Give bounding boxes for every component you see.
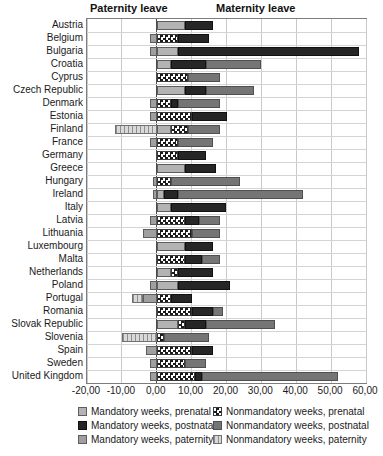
legend-item: Nonmandatory weeks, postnatal xyxy=(213,420,369,431)
gridline-horizontal xyxy=(87,188,366,189)
legend-label: Nonmandatory weeks, paternity xyxy=(226,434,367,445)
bar-segment-postnatal_nonmandatory xyxy=(188,125,219,134)
bar-segment-prenatal_nonmandatory xyxy=(157,151,178,160)
bar-segment-postnatal_mandatory xyxy=(171,99,178,108)
bar-segment-postnatal_mandatory xyxy=(185,320,206,329)
bar-segment-postnatal_mandatory xyxy=(192,346,213,355)
bar-segment-postnatal_nonmandatory xyxy=(178,138,213,147)
bar-segment-prenatal_mandatory xyxy=(157,320,178,329)
gridline-horizontal xyxy=(87,214,366,215)
bar-segment-prenatal_mandatory xyxy=(157,21,185,30)
country-label: Cyprus xyxy=(0,70,83,83)
bar-segment-prenatal_nonmandatory xyxy=(157,112,192,121)
bar-segment-postnatal_nonmandatory xyxy=(213,307,223,316)
gridline-horizontal xyxy=(87,162,366,163)
gridline-horizontal xyxy=(87,240,366,241)
legend-item: Mandatory weeks, postnatal xyxy=(78,420,216,431)
bar-segment-paternity_mandatory xyxy=(143,229,157,238)
bar-segment-prenatal_nonmandatory xyxy=(157,138,178,147)
country-label: Greece xyxy=(0,161,83,174)
legend-swatch-paternity_nonmandatory xyxy=(213,435,222,444)
bar-segment-postnatal_nonmandatory xyxy=(178,99,220,108)
bar-segment-paternity_nonmandatory xyxy=(132,294,142,303)
legend-label: Mandatory weeks, postnatal xyxy=(91,420,216,431)
bar-segment-postnatal_mandatory xyxy=(192,112,227,121)
bar-segment-postnatal_nonmandatory xyxy=(178,190,304,199)
x-tick-label: -10,00 xyxy=(107,385,135,396)
bar-segment-prenatal_mandatory xyxy=(157,86,185,95)
bar-segment-prenatal_mandatory xyxy=(157,242,185,251)
bar-segment-postnatal_nonmandatory xyxy=(188,73,219,82)
country-label: Lithuania xyxy=(0,226,83,239)
bar-segment-prenatal_nonmandatory xyxy=(157,294,171,303)
gridline-horizontal xyxy=(87,253,366,254)
bar-segment-postnatal_nonmandatory xyxy=(164,333,209,342)
country-label: Estonia xyxy=(0,109,83,122)
bar-segment-postnatal_mandatory xyxy=(185,86,206,95)
bar-segment-prenatal_mandatory xyxy=(157,125,171,134)
bar-segment-prenatal_nonmandatory xyxy=(157,346,192,355)
bar-segment-postnatal_mandatory xyxy=(185,255,202,264)
x-tick-label: 20,00 xyxy=(213,385,238,396)
country-label: Luxembourg xyxy=(0,239,83,252)
gridline-horizontal xyxy=(87,136,366,137)
bar-segment-postnatal_mandatory xyxy=(185,216,199,225)
legend-swatch-postnatal_mandatory xyxy=(78,421,87,430)
bar-segment-prenatal_mandatory xyxy=(157,47,178,56)
bar-segment-postnatal_mandatory xyxy=(178,151,206,160)
country-label: Poland xyxy=(0,278,83,291)
country-label: Spain xyxy=(0,343,83,356)
bar-segment-postnatal_nonmandatory xyxy=(202,372,338,381)
bar-segment-prenatal_mandatory xyxy=(157,203,171,212)
x-tick-label: 0,00 xyxy=(146,385,165,396)
bar-segment-postnatal_mandatory xyxy=(185,242,213,251)
bar-segment-prenatal_nonmandatory xyxy=(171,125,188,134)
bar-segment-postnatal_nonmandatory xyxy=(206,86,255,95)
bar-segment-paternity_mandatory xyxy=(146,346,156,355)
bar-segment-postnatal_mandatory xyxy=(178,268,213,277)
x-tick-label: 30,00 xyxy=(248,385,273,396)
gridline-horizontal xyxy=(87,331,366,332)
bar-segment-postnatal_mandatory xyxy=(185,164,216,173)
bar-segment-prenatal_nonmandatory xyxy=(171,268,178,277)
gridline-horizontal xyxy=(87,201,366,202)
bar-segment-postnatal_nonmandatory xyxy=(206,60,262,69)
gridline-horizontal xyxy=(87,149,366,150)
bar-segment-postnatal_mandatory xyxy=(178,47,359,56)
legend-item: Mandatory weeks, prenatal xyxy=(78,406,211,417)
bar-segment-paternity_mandatory xyxy=(143,294,157,303)
x-tick-label: 60,00 xyxy=(352,385,377,396)
gridline-horizontal xyxy=(87,110,366,111)
country-label: Romania xyxy=(0,304,83,317)
bar-segment-paternity_mandatory xyxy=(150,138,157,147)
bar-segment-paternity_mandatory xyxy=(150,47,157,56)
gridline-horizontal xyxy=(87,279,366,280)
bar-segment-paternity_mandatory xyxy=(150,372,157,381)
gridline-horizontal xyxy=(87,227,366,228)
bar-segment-prenatal_nonmandatory xyxy=(157,216,185,225)
bar-segment-postnatal_nonmandatory xyxy=(202,255,219,264)
bar-segment-prenatal_mandatory xyxy=(157,190,164,199)
bar-segment-postnatal_mandatory xyxy=(164,190,178,199)
bar-segment-postnatal_mandatory xyxy=(171,203,227,212)
country-label: Italy xyxy=(0,200,83,213)
country-label: Hungary xyxy=(0,174,83,187)
bar-segment-paternity_mandatory xyxy=(150,34,157,43)
legend-item: Nonmandatory weeks, prenatal xyxy=(213,406,364,417)
x-tick-label: 50,00 xyxy=(318,385,343,396)
bar-segment-prenatal_nonmandatory xyxy=(157,372,195,381)
legend-swatch-prenatal_mandatory xyxy=(78,407,87,416)
gridline-horizontal xyxy=(87,292,366,293)
x-tick-label: 40,00 xyxy=(283,385,308,396)
legend-label: Nonmandatory weeks, prenatal xyxy=(226,406,364,417)
bar-segment-paternity_mandatory xyxy=(150,112,157,121)
gridline-horizontal xyxy=(87,58,366,59)
x-tick-label: 10,00 xyxy=(178,385,203,396)
gridline-horizontal xyxy=(87,305,366,306)
x-tick-label: -20,00 xyxy=(72,385,100,396)
bar-segment-prenatal_nonmandatory xyxy=(157,333,164,342)
bar-segment-postnatal_mandatory xyxy=(171,294,192,303)
country-label: Czech Republic xyxy=(0,83,83,96)
bar-segment-prenatal_mandatory xyxy=(157,164,185,173)
bar-segment-postnatal_mandatory xyxy=(195,372,202,381)
